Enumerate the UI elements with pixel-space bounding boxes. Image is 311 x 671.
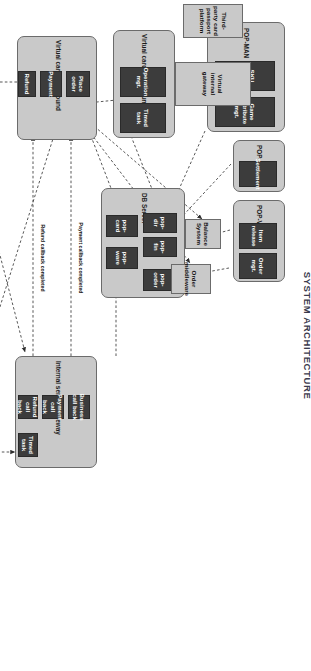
- group-label-virtual-card-background: Virtual card background: [140, 34, 147, 62]
- diagram-canvas: SYSTEM ARCHITECTURE: [6, 0, 310, 671]
- block-pop-card[interactable]: pop-card: [106, 215, 138, 237]
- node-virtual-internal-gateway[interactable]: Virtual internal gateway: [175, 62, 251, 106]
- block-timed-task-gateway[interactable]: Timed task: [18, 433, 38, 457]
- group-label-virtual-card-foreground: Virtual card foreground: [54, 40, 61, 68]
- block-business-call-back[interactable]: Business call back: [68, 395, 90, 419]
- block-timed-task-background[interactable]: Timed task: [120, 103, 166, 133]
- diagram-stage: SYSTEM ARCHITECTURE: [6, 0, 310, 671]
- block-pop-ware[interactable]: pop-ware: [106, 247, 138, 269]
- edge-label-payment-callback-completed: Payment callback completed: [77, 198, 83, 318]
- block-refund[interactable]: Refund: [18, 71, 36, 97]
- group-virtual-card-background[interactable]: Virtual card background Operation mgt. T…: [113, 30, 175, 138]
- block-order-mgt[interactable]: Order mgt.: [239, 253, 277, 279]
- block-operation-mgt[interactable]: Operation mgt.: [120, 67, 166, 97]
- group-pop-ven[interactable]: POP-VEN Item release Order mgt.: [233, 200, 285, 282]
- group-internal-service-gateway[interactable]: Internal service gateway Business call b…: [15, 356, 97, 468]
- group-virtual-card-foreground[interactable]: Virtual card foreground Place order Paym…: [17, 36, 97, 140]
- block-settlement[interactable]: Settlement: [239, 161, 277, 187]
- node-third-party-card-passport-platform[interactable]: Third-party card passport platform: [183, 4, 243, 38]
- block-place-order[interactable]: Place order: [66, 71, 90, 97]
- edge-label-refund-callback-completed: Refund callback completed: [39, 198, 45, 318]
- block-item-release[interactable]: Item release: [239, 223, 277, 249]
- node-order-middleware[interactable]: Order middleware: [171, 264, 211, 294]
- block-pop-fin[interactable]: pop-fin: [143, 237, 177, 257]
- group-label-pop-man: POP-MAN: [242, 28, 249, 58]
- block-pop-dir[interactable]: pop-dir: [143, 213, 177, 233]
- block-payment-call-back[interactable]: Payment call back: [42, 395, 64, 419]
- block-payment[interactable]: Payment: [40, 71, 62, 97]
- group-pop-fin[interactable]: POP-FIN Settlement: [233, 140, 285, 192]
- block-refund-call-back[interactable]: Refund call back: [18, 395, 38, 419]
- group-label-internal-service-gateway: Internal service gateway: [54, 361, 61, 391]
- node-balance-system[interactable]: Balance System: [185, 219, 221, 249]
